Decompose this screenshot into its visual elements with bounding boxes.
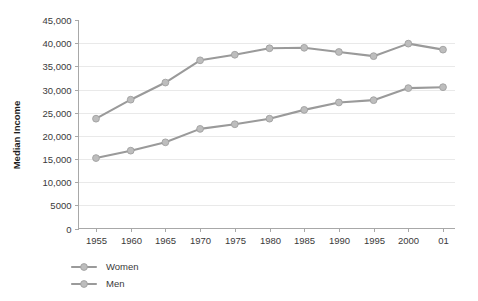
x-axis-tick-label: 1955: [86, 235, 107, 246]
y-axis-title: Median Income: [11, 101, 22, 170]
data-point[interactable]: [266, 115, 273, 122]
data-point[interactable]: [197, 125, 204, 132]
data-point[interactable]: [336, 99, 343, 106]
y-axis-tick-label: 15,000: [42, 154, 71, 165]
y-axis-tick-label: 40,000: [42, 38, 71, 49]
legend-label: Women: [106, 261, 139, 272]
data-point[interactable]: [127, 96, 134, 103]
x-axis-tick-label: 1965: [155, 235, 176, 246]
y-axis-tick-label: 45,000: [42, 15, 71, 26]
x-axis-tick-label: 01: [438, 235, 449, 246]
data-point[interactable]: [336, 49, 343, 56]
data-point[interactable]: [440, 84, 447, 91]
legend-label: Men: [106, 278, 124, 289]
x-axis-tick-label: 1995: [364, 235, 385, 246]
y-axis-tick-label: 35,000: [42, 61, 71, 72]
y-axis-tick-label: 25,000: [42, 108, 71, 119]
x-axis-tick-label: 1980: [260, 235, 281, 246]
x-axis-tick-label: 1970: [190, 235, 211, 246]
y-axis-tick-label: 10,000: [42, 177, 71, 188]
data-point[interactable]: [231, 121, 238, 128]
data-point[interactable]: [197, 57, 204, 64]
x-axis-tick-label: 2000: [398, 235, 419, 246]
y-axis-tick-label: 5000: [50, 200, 71, 211]
data-point[interactable]: [266, 45, 273, 52]
y-axis-tick-label: 20,000: [42, 131, 71, 142]
data-point[interactable]: [405, 40, 412, 47]
x-axis-tick-label: 1985: [294, 235, 315, 246]
legend-marker-swatch: [81, 281, 88, 288]
data-point[interactable]: [405, 85, 412, 92]
data-point[interactable]: [162, 79, 169, 86]
data-point[interactable]: [301, 44, 308, 51]
line-chart: 0500010,00015,00020,00025,00030,00035,00…: [0, 0, 478, 301]
data-point[interactable]: [301, 106, 308, 113]
data-point[interactable]: [93, 115, 100, 122]
legend-marker-swatch: [81, 264, 88, 271]
x-axis-tick-label: 1960: [121, 235, 142, 246]
data-point[interactable]: [231, 51, 238, 58]
x-axis-tick-label: 1975: [225, 235, 246, 246]
data-point[interactable]: [127, 147, 134, 154]
data-point[interactable]: [162, 139, 169, 146]
x-axis-tick-label: 1990: [329, 235, 350, 246]
data-point[interactable]: [370, 97, 377, 104]
data-point[interactable]: [370, 53, 377, 60]
data-point[interactable]: [93, 155, 100, 162]
y-axis-tick-label: 0: [66, 224, 71, 235]
y-axis-tick-label: 30,000: [42, 85, 71, 96]
data-point[interactable]: [440, 46, 447, 53]
chart-container: 0500010,00015,00020,00025,00030,00035,00…: [0, 0, 478, 301]
